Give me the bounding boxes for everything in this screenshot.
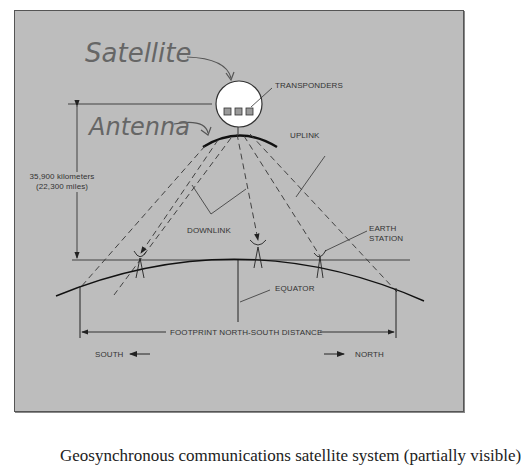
transponder-box xyxy=(224,108,231,115)
satellite-body xyxy=(216,81,262,127)
footprint-label: FOOTPRINT NORTH-SOUTH DISTANCE xyxy=(170,328,316,338)
equator-label: EQUATOR xyxy=(275,284,315,294)
earth-surface-curve xyxy=(56,259,424,301)
earth-station-icon xyxy=(314,250,326,278)
figure-caption: Geosynchronous communications satellite … xyxy=(60,446,521,466)
south-label: SOUTH xyxy=(95,350,124,360)
altitude-miles-label: (22,300 miles) xyxy=(22,182,102,192)
north-label: NORTH xyxy=(355,350,384,360)
earth-station-icon xyxy=(250,240,266,268)
earth-station-icon xyxy=(134,251,146,278)
transponder-box xyxy=(246,108,253,115)
earth-station-label-line1: EARTH xyxy=(369,224,396,234)
downlink-label: DOWNLINK xyxy=(187,226,231,236)
satellite-handwritten-label: Satellite xyxy=(85,38,192,68)
earth-station-label-line2: STATION xyxy=(369,234,403,244)
antenna-handwritten-label: Antenna xyxy=(89,113,190,141)
satellite-pointer-arrow xyxy=(187,57,231,78)
altitude-km-label: 35,900 kilometers xyxy=(22,172,102,182)
transponder-box xyxy=(235,108,242,115)
antenna-arc xyxy=(203,136,277,148)
transponders-label: TRANSPONDERS xyxy=(275,81,343,91)
uplink-label: UPLINK xyxy=(290,131,320,141)
